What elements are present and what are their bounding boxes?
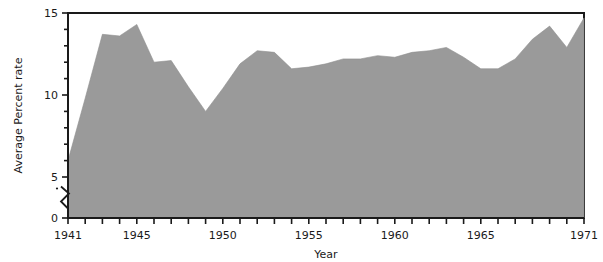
x-axis-tick-label: 1945: [123, 229, 151, 242]
x-axis-tick-label: 1955: [295, 229, 323, 242]
y-axis-tick-label: 0: [51, 212, 58, 225]
x-axis-tick-label: 1950: [209, 229, 237, 242]
y-axis-break-dot-icon: [56, 187, 58, 189]
x-axis-tick-label: 1971: [570, 229, 598, 242]
y-axis-tick-label: 5: [51, 171, 58, 184]
chart-figure: 051015 1941194519501955196019651971 Aver…: [0, 0, 603, 262]
y-axis-tick-label: 10: [44, 89, 58, 102]
x-axis-tick-label: 1941: [54, 229, 82, 242]
x-axis-tick-label: 1960: [381, 229, 409, 242]
area-chart-svg: 051015 1941194519501955196019651971 Aver…: [0, 0, 603, 262]
x-axis-title: Year: [313, 248, 338, 261]
y-axis-tick-label: 15: [44, 7, 58, 20]
y-axis-title: Average Percent rate: [12, 57, 25, 173]
x-axis-tick-label: 1965: [467, 229, 495, 242]
